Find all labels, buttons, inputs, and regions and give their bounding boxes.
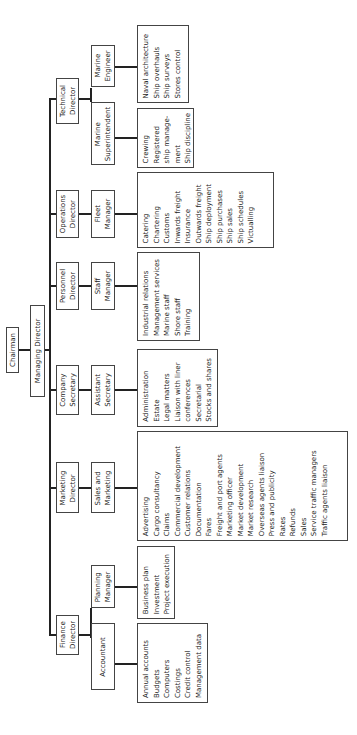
planning-manager-node: Planning Manager xyxy=(91,565,115,608)
duty-item: Customs xyxy=(162,184,173,243)
duty-item: Stores control xyxy=(173,34,184,98)
duty-item: Market research xyxy=(246,446,257,536)
operations-branch xyxy=(78,213,92,215)
duty-item: Marketing officer xyxy=(225,446,236,536)
duty-item: Administration xyxy=(141,358,152,422)
planning-manager-leaf-connector xyxy=(115,586,137,588)
fleet-manager-leaf-connector xyxy=(115,213,137,215)
accountant-node: Accountant xyxy=(91,623,115,690)
marine-engineer-label: Marine Engineer xyxy=(93,50,114,81)
duty-item: Ship sales xyxy=(225,184,236,243)
personnel-branch xyxy=(78,285,92,287)
duty-item: Ship overhauls xyxy=(152,34,163,98)
duty-item: Estate xyxy=(152,358,163,422)
duty-item: Fares xyxy=(204,446,215,536)
duty-list: Advertising Cargo consultancy Claims Com… xyxy=(141,446,330,536)
fleet-manager-label: Fleet Manager xyxy=(93,199,114,230)
duty-list: Industrial relations Management services… xyxy=(141,259,194,336)
duty-item: Ship purchases xyxy=(215,184,226,243)
assistant-secretary-label: Assistant Secretary xyxy=(93,373,114,407)
finance-director-node: Finance Director xyxy=(56,615,79,655)
duty-item: Registered xyxy=(152,113,163,163)
duty-item: Marine staff xyxy=(162,259,173,336)
accountant-duties: Annual accounts Budgets Computers Costin… xyxy=(137,623,208,703)
duty-item: Customer relations xyxy=(183,446,194,536)
duty-list: Catering Chartering Customs Inwards frei… xyxy=(141,184,257,243)
technical-director-label: Technical Director xyxy=(57,85,78,117)
assistant-secretary-node: Assistant Secretary xyxy=(91,365,115,415)
marketing-branch xyxy=(78,487,92,489)
chairman-md-connector xyxy=(18,349,30,351)
accountant-leaf-connector xyxy=(115,663,137,665)
marine-superintendent-duties: Crewing Registered ship manage- ment Shi… xyxy=(137,108,194,168)
staff-manager-duties: Industrial relations Management services… xyxy=(137,252,200,341)
duty-item: Credit control xyxy=(183,634,194,698)
sales-marketing-node: Sales and Marketing xyxy=(91,462,115,513)
duty-item: Service traffic managers xyxy=(309,446,320,536)
duty-item: Commercial development xyxy=(173,446,184,536)
staff-manager-node: Staff Manager xyxy=(91,262,115,310)
duty-item: Press and publicity xyxy=(267,446,278,536)
duty-item: Inwards freight xyxy=(173,184,184,243)
duty-item: Project execution xyxy=(162,554,173,614)
duty-item: Industrial relations xyxy=(141,259,152,336)
duty-item: Outwards freight xyxy=(194,184,205,243)
finance-director-label: Finance Director xyxy=(57,621,78,649)
fleet-manager-node: Fleet Manager xyxy=(91,190,115,238)
company-secretary-branch xyxy=(78,389,92,391)
marine-engineer-duties: Naval architecture Ship overhauls Ship s… xyxy=(137,25,189,103)
marketing-director-label: Marketing Director xyxy=(57,470,78,505)
assistant-secretary-duties: Administration Estate Legal matters Liai… xyxy=(137,349,218,427)
technical-split xyxy=(90,88,92,102)
planning-manager-duties: Business plan Investment Project executi… xyxy=(137,546,175,619)
marine-superintendent-leaf-connector xyxy=(115,137,137,139)
chairman-label: Chairman xyxy=(7,333,18,367)
duty-item: Ship discipline xyxy=(183,113,194,163)
duty-item: Advertising xyxy=(141,446,152,536)
marine-engineer-leaf-connector xyxy=(115,66,137,68)
duty-item: Investment xyxy=(152,554,163,614)
duty-item: Annual accounts xyxy=(141,634,152,698)
duty-item: Cargo consultancy xyxy=(152,446,163,536)
duty-item: Documentation xyxy=(194,446,205,536)
duty-item: ment xyxy=(173,113,184,163)
duty-item: Overseas agents liaison xyxy=(257,446,268,536)
duty-item: Stocks and shares xyxy=(204,358,215,422)
duty-list: Crewing Registered ship manage- ment Shi… xyxy=(141,113,194,163)
director-trunk xyxy=(49,98,51,636)
duty-list: Naval architecture Ship overhauls Ship s… xyxy=(141,34,183,98)
duty-item: Naval architecture xyxy=(141,34,152,98)
duty-list: Business plan Investment Project executi… xyxy=(141,554,173,614)
marine-superintendent-label: Marine Superintendent xyxy=(93,106,114,160)
duty-item: Victualling xyxy=(246,184,257,243)
marine-engineer-node: Marine Engineer xyxy=(91,45,115,87)
staff-manager-label: Staff Manager xyxy=(93,271,114,302)
personnel-director-label: Personnel Director xyxy=(57,269,78,303)
duty-list: Administration Estate Legal matters Liai… xyxy=(141,358,215,422)
duty-item: Insurance xyxy=(183,184,194,243)
duty-item: Freight and port agents xyxy=(215,446,226,536)
managing-director-label: Managing Director xyxy=(32,319,43,384)
duty-item: Chartering xyxy=(152,184,163,243)
duty-item: ship manage- xyxy=(162,113,173,163)
duty-item: Computers xyxy=(162,634,173,698)
duty-item: Management data xyxy=(194,634,205,698)
duty-item: Costings xyxy=(173,634,184,698)
accountant-label: Accountant xyxy=(98,637,109,677)
duty-item: Management services xyxy=(152,259,163,336)
chairman-node: Chairman xyxy=(6,327,19,373)
duty-item: Shore staff xyxy=(173,259,184,336)
sales-marketing-duties: Advertising Cargo consultancy Claims Com… xyxy=(137,431,348,541)
personnel-director-node: Personnel Director xyxy=(56,262,79,310)
company-secretary-node: Company Secretary xyxy=(56,365,79,415)
duty-item: Rates xyxy=(278,446,289,536)
duty-item: Traffic agents liaison xyxy=(320,446,331,536)
duty-item: Legal matters xyxy=(162,358,173,422)
duty-item: Ship surveys xyxy=(162,34,173,98)
duty-item: Refunds xyxy=(288,446,299,536)
duty-item: Budgets xyxy=(152,634,163,698)
technical-director-node: Technical Director xyxy=(56,78,79,124)
operations-director-node: Operations Director xyxy=(56,190,79,238)
assistant-secretary-leaf-connector xyxy=(115,389,137,391)
duty-item: Training xyxy=(183,259,194,336)
